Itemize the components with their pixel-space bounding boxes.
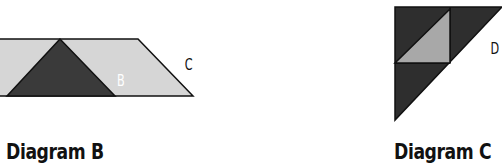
diagram-b: B C <box>0 39 193 96</box>
caption-diagram-b: Diagram B <box>6 140 104 164</box>
diagram-c: D <box>395 7 502 120</box>
caption-diagram-c: Diagram C <box>394 140 491 164</box>
label-d: D <box>490 40 499 57</box>
label-b: B <box>117 72 125 89</box>
label-c: C <box>185 56 193 73</box>
